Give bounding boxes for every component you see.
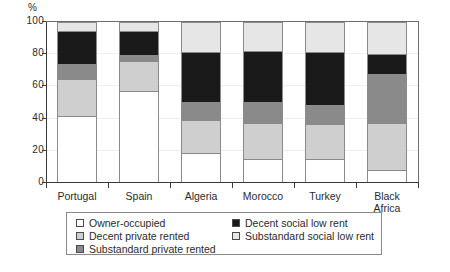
legend-label: Owner-occupied <box>89 217 165 229</box>
chart-legend: Owner-occupiedDecent private rentedSubst… <box>66 212 382 255</box>
bar-segment <box>368 55 406 75</box>
bar-segment <box>306 160 344 182</box>
bar-segment <box>182 121 220 155</box>
legend-item[interactable]: Substandard private rented <box>76 243 216 255</box>
bar-segment <box>368 124 406 172</box>
legend-item[interactable]: Owner-occupied <box>76 217 216 229</box>
y-tick-label: 0 <box>20 176 44 187</box>
bar-segment <box>120 23 158 32</box>
legend-swatch-icon <box>76 219 84 227</box>
bar-algeria[interactable] <box>181 22 221 182</box>
x-tick-mark <box>418 183 419 188</box>
bar-segment <box>368 75 406 124</box>
chart-page: % 020406080100 PortugalSpainAlgeriaMoroc… <box>0 0 450 272</box>
legend-item[interactable]: Decent private rented <box>76 230 216 242</box>
legend-label: Decent private rented <box>89 230 189 242</box>
x-tick-mark <box>294 183 295 188</box>
bar-segment <box>244 103 282 124</box>
legend-column-left: Owner-occupiedDecent private rentedSubst… <box>76 217 216 256</box>
legend-swatch-icon <box>76 232 84 240</box>
bar-segment <box>58 80 96 117</box>
legend-item[interactable]: Decent social low rent <box>232 217 374 229</box>
bar-segment <box>58 65 96 80</box>
legend-swatch-icon <box>232 219 240 227</box>
plot-area <box>46 22 418 182</box>
bar-segment <box>306 125 344 160</box>
legend-swatch-icon <box>76 245 84 253</box>
legend-label: Substandard social low rent <box>245 230 374 242</box>
y-axis-unit-label: % <box>28 2 37 13</box>
x-axis-label-line: Black <box>342 190 432 202</box>
x-tick-mark <box>108 183 109 188</box>
y-tick-label: 20 <box>20 144 44 155</box>
y-tick-label: 60 <box>20 79 44 90</box>
x-axis-label-black-africa: BlackAfrica <box>342 190 432 214</box>
bar-black-africa[interactable] <box>367 22 407 182</box>
bar-segment <box>368 23 406 55</box>
legend-swatch-icon <box>232 232 240 240</box>
bar-segment <box>120 32 158 56</box>
x-tick-mark <box>356 183 357 188</box>
bar-spain[interactable] <box>119 22 159 182</box>
bar-segment <box>58 117 96 182</box>
legend-label: Substandard private rented <box>89 243 216 255</box>
bar-segment <box>58 23 96 32</box>
y-tick-label: 80 <box>20 47 44 58</box>
bar-turkey[interactable] <box>305 22 345 182</box>
bar-segment <box>182 53 220 102</box>
bar-segment <box>244 52 282 103</box>
bar-segment <box>368 171 406 182</box>
bar-segment <box>182 154 220 182</box>
legend-item[interactable]: Substandard social low rent <box>232 230 374 242</box>
x-tick-mark <box>170 183 171 188</box>
bar-segment <box>244 23 282 52</box>
bar-morocco[interactable] <box>243 22 283 182</box>
bar-segment <box>120 62 158 92</box>
bar-segment <box>306 23 344 53</box>
bar-segment <box>120 92 158 182</box>
x-tick-mark <box>232 183 233 188</box>
bar-portugal[interactable] <box>57 22 97 182</box>
y-tick-label: 100 <box>20 15 44 26</box>
bar-segment <box>244 160 282 182</box>
x-tick-mark <box>46 183 47 188</box>
bar-segment <box>306 106 344 126</box>
plot-frame-right <box>418 21 419 183</box>
y-tick-label: 40 <box>20 112 44 123</box>
legend-column-right: Decent social low rentSubstandard social… <box>232 217 374 243</box>
bar-segment <box>244 124 282 161</box>
bar-segment <box>306 53 344 105</box>
bar-segment <box>182 103 220 121</box>
bar-segment <box>182 23 220 53</box>
bar-segment <box>58 32 96 66</box>
legend-label: Decent social low rent <box>245 217 348 229</box>
